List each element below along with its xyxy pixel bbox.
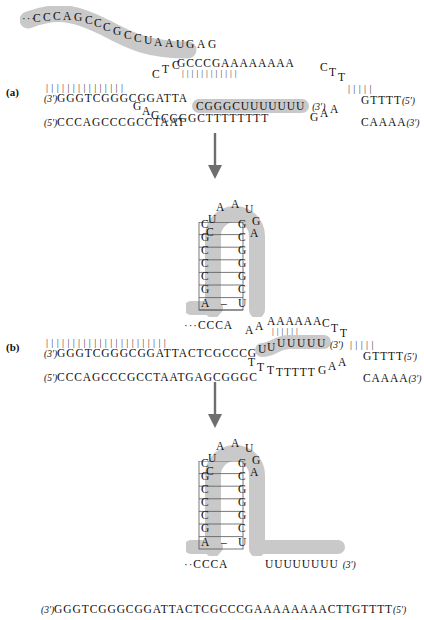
right-bottom-end-label-a: (3') [406, 118, 419, 128]
right-basepair-bonds-b: ||||| [350, 339, 377, 350]
hairpin-tail-right-end-label-c: (3') [343, 560, 356, 570]
arrow-a-to-b [205, 133, 225, 181]
bound-rna-sequence-a: CGGGCUUUUUUU [192, 99, 309, 113]
right-bottom-end-label-b: (3') [408, 374, 421, 384]
bottom-sequence-5prime-label: (3') [41, 605, 54, 615]
duplex-bottom-end-label-a: (5') [44, 118, 57, 128]
right-basepair-bonds-a: ||||| [348, 83, 375, 94]
bottom-arc-sequence-b: TTTTT [276, 366, 316, 378]
panel-label-a: (a) [6, 86, 19, 98]
right-bottom-sequence-a: CAAAA [361, 116, 406, 128]
bottom-sequence-bases: GGGTCGGGCGGATTACTCGCCCGAAAAAAAACTTGTTTT [54, 603, 393, 615]
hairpin-tail-left-sequence-c: CCCA [193, 558, 228, 570]
bottom-arc-sequence-a: CGGGCTTTTTTTT [161, 112, 269, 124]
right-bottom-strand-b: CAAAA(3') [347, 350, 422, 404]
hairpin-tail-right-sequence-c: UUUUUUUU [265, 558, 339, 570]
hairpin-tail-ellipsis-c: ·· [184, 558, 193, 570]
bottom-arc-stepup-a: G A A [310, 101, 350, 126]
right-bottom-strand-a: CAAAA(3') [345, 94, 420, 148]
duplex-bottom-sequence-b: CCCAGCCCGCCTAATGAGCGGGC [57, 371, 258, 383]
bottom-full-sequence: (3')GGGTCGGGCGGATTACTCGCCCGAAAAAAAACTTGT… [25, 581, 406, 620]
right-bottom-sequence-b: CAAAA [363, 372, 408, 384]
rna-basepair-bonds-a: |||||||||||| [182, 68, 240, 78]
duplex-basepair-bonds-a: ||||||||||||||| [46, 82, 126, 93]
duplex-basepair-bonds-b: ||||||||||||||||||||||| [46, 337, 169, 348]
arrow-b-to-c [205, 382, 225, 430]
free-rna-sequence-a: C C C A G C C C G C C U A A U G A G [33, 7, 253, 62]
duplex-bottom-end-label-b: (5') [44, 373, 57, 383]
panel-label-b: (b) [6, 341, 19, 353]
bottom-sequence-3prime-label: (5') [393, 605, 406, 615]
bottom-arc-stepup-b: G A A [318, 355, 358, 380]
